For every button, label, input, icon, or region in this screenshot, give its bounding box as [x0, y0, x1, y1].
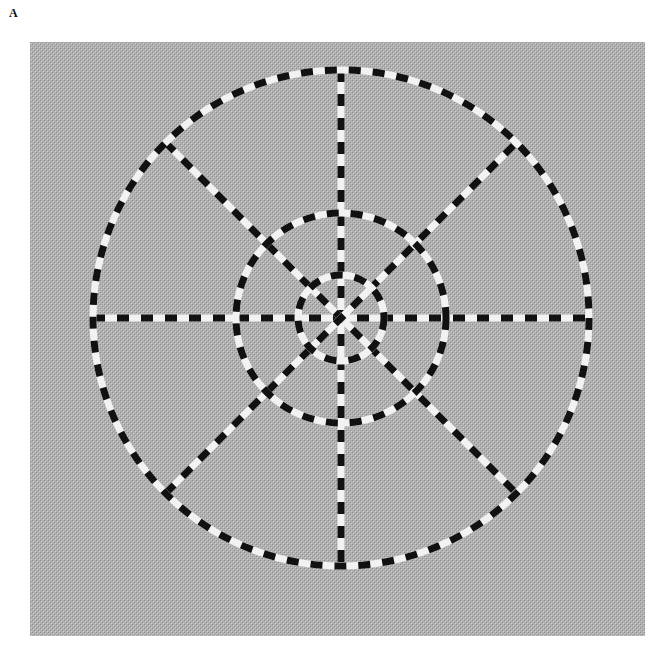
radial-dashed-target-figure	[0, 0, 659, 649]
